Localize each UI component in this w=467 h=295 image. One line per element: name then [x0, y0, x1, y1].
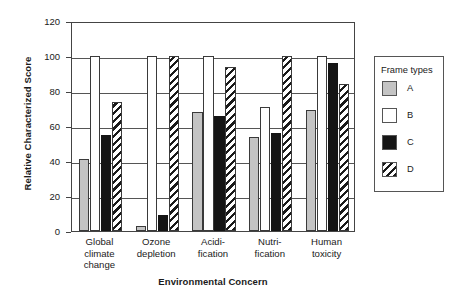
- legend-label: A: [407, 83, 413, 93]
- legend-swatch-d: [382, 162, 397, 177]
- x-axis-category-label: Ozone depletion: [128, 236, 185, 259]
- bar-d-4: [339, 84, 349, 231]
- bar-chart-figure: Relative Characterized Score 02040608010…: [0, 0, 467, 295]
- bar-c-1: [158, 215, 168, 231]
- bar-b-0: [90, 56, 100, 231]
- bar-c-4: [328, 63, 338, 231]
- legend-swatch-c: [382, 135, 397, 150]
- legend-title: Frame types: [381, 65, 433, 75]
- bar-a-1: [136, 226, 146, 231]
- y-axis-tick-label: 40: [26, 157, 60, 167]
- bar-d-0: [112, 102, 122, 232]
- x-axis-category-label: Global climate change: [71, 236, 128, 271]
- legend-label: B: [407, 110, 413, 120]
- bar-c-3: [271, 133, 281, 231]
- x-axis-title: Environmental Concern: [71, 276, 355, 287]
- y-axis-tick-label: 0: [26, 227, 60, 237]
- bar-a-0: [79, 159, 89, 231]
- x-axis-category-label: Nutri- fication: [241, 236, 298, 259]
- legend-label: C: [407, 137, 414, 147]
- plot-area: [71, 22, 355, 232]
- bar-c-2: [214, 116, 224, 232]
- y-axis-tick-mark: [66, 232, 71, 233]
- x-axis-category-label: Human toxicity: [298, 236, 355, 259]
- y-axis-tick-label: 100: [26, 52, 60, 62]
- bar-d-3: [282, 56, 292, 231]
- legend-entry-d: D: [382, 162, 442, 178]
- bar-a-3: [249, 137, 259, 232]
- legend-entry-a: A: [382, 81, 442, 97]
- y-axis-tick-label: 80: [26, 87, 60, 97]
- bar-a-2: [192, 112, 202, 231]
- bar-b-1: [147, 56, 157, 231]
- bar-d-1: [169, 56, 179, 231]
- bar-c-0: [101, 135, 111, 231]
- bars-layer: [72, 23, 354, 231]
- legend-entry-c: C: [382, 135, 442, 151]
- y-axis-tick-label: 60: [26, 122, 60, 132]
- x-axis-category-label: Acidi- fication: [185, 236, 242, 259]
- bar-d-2: [225, 67, 235, 232]
- legend-swatch-a: [382, 81, 397, 96]
- bar-b-3: [260, 107, 270, 231]
- legend-entry-b: B: [382, 108, 442, 124]
- bar-b-2: [203, 56, 213, 231]
- bar-b-4: [317, 56, 327, 231]
- legend-box: Frame types ABCD: [374, 56, 444, 192]
- y-axis-tick-label: 120: [26, 17, 60, 27]
- bar-a-4: [306, 110, 316, 231]
- legend-label: D: [407, 164, 414, 174]
- y-axis-tick-label: 20: [26, 192, 60, 202]
- legend-swatch-b: [382, 108, 397, 123]
